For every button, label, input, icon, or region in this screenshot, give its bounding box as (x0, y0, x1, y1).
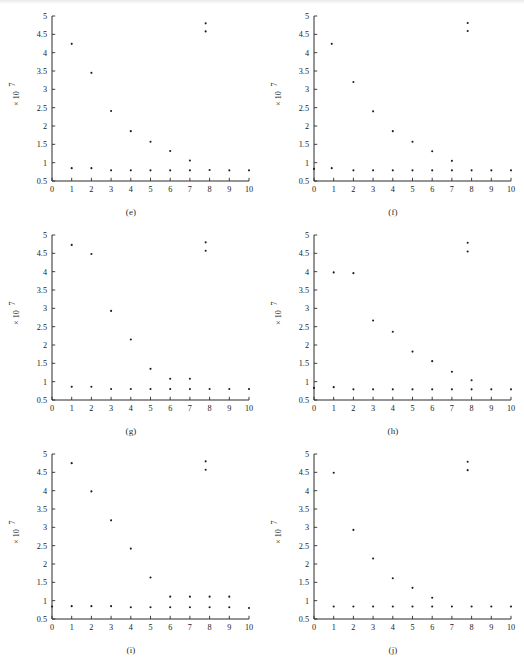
data-point (90, 386, 92, 388)
y-tick-label: 2.5 (37, 323, 47, 332)
data-point (110, 310, 112, 312)
x-tick-label: 9 (227, 404, 231, 413)
x-tick-label: 5 (410, 404, 414, 413)
x-tick-label: 2 (89, 623, 93, 632)
data-point (352, 388, 354, 390)
data-point (333, 472, 335, 474)
subplot-f: 0123456789100.511.522.533.544.55× 107 (f… (262, 0, 524, 219)
y-tick-label: 2.5 (37, 104, 47, 113)
data-point (392, 130, 394, 132)
x-tick-label: 2 (89, 185, 93, 194)
data-point (228, 169, 230, 171)
data-point (471, 169, 473, 171)
svg-text:× 10: × 10 (274, 310, 283, 325)
data-point (451, 371, 453, 373)
y-tick-label: 2 (305, 122, 309, 131)
data-point (110, 110, 112, 112)
data-point (392, 577, 394, 579)
x-tick-label: 4 (129, 404, 133, 413)
plot-canvas-j: 0123456789100.511.522.533.544.55× 107 (262, 438, 524, 657)
data-point (90, 72, 92, 74)
y-tick-label: 4 (43, 268, 47, 277)
data-point (352, 169, 354, 171)
data-point (149, 388, 151, 390)
y-tick-label: 1.5 (37, 359, 47, 368)
data-point (209, 388, 211, 390)
data-point (209, 169, 211, 171)
data-point (228, 388, 230, 390)
x-tick-label: 8 (208, 185, 212, 194)
data-point (169, 388, 171, 390)
y-tick-label: 4 (305, 487, 309, 496)
x-tick-label: 8 (470, 404, 474, 413)
data-point (471, 388, 473, 390)
subplot-j: 0123456789100.511.522.533.544.55× 107 (j… (262, 438, 524, 657)
x-tick-label: 4 (391, 623, 395, 632)
y-tick-label: 1.5 (299, 578, 309, 587)
data-point (467, 22, 469, 24)
subplot-caption-h: (h) (262, 426, 524, 436)
y-tick-label: 4.5 (37, 468, 47, 477)
data-point (110, 388, 112, 390)
y-tick-label: 3.5 (299, 505, 309, 514)
x-tick-label: 5 (148, 404, 152, 413)
data-point (149, 577, 151, 579)
data-point (510, 605, 512, 607)
data-point (90, 167, 92, 169)
x-tick-label: 3 (371, 623, 375, 632)
y-tick-label: 1.5 (37, 578, 47, 587)
data-point (431, 597, 433, 599)
x-tick-label: 3 (371, 185, 375, 194)
y-tick-label: 3 (305, 523, 309, 532)
y-tick-label: 0.5 (299, 615, 309, 624)
y-tick-label: 0.5 (299, 396, 309, 405)
x-tick-label: 9 (489, 623, 493, 632)
data-point (372, 557, 374, 559)
data-point (352, 605, 354, 607)
data-point (411, 605, 413, 607)
data-point (189, 378, 191, 380)
data-point (313, 168, 315, 170)
x-tick-label: 8 (470, 623, 474, 632)
x-tick-label: 8 (208, 623, 212, 632)
data-point (372, 605, 374, 607)
y-tick-label: 1 (43, 378, 47, 387)
data-point (189, 159, 191, 161)
data-point (169, 596, 171, 598)
data-point (431, 169, 433, 171)
y-axis-multiplier-label: × 107 (8, 520, 21, 543)
y-tick-label: 1 (305, 159, 309, 168)
subplot-caption-e: (e) (0, 207, 262, 217)
y-tick-label: 2 (305, 341, 309, 350)
data-point (248, 607, 250, 609)
svg-text:7: 7 (8, 520, 17, 524)
data-point (490, 169, 492, 171)
data-point (467, 242, 469, 244)
y-tick-label: 1 (43, 159, 47, 168)
y-tick-label: 1.5 (37, 140, 47, 149)
data-point (189, 596, 191, 598)
data-point (149, 169, 151, 171)
y-tick-label: 5 (43, 12, 47, 21)
data-point (110, 605, 112, 607)
subplot-caption-j: (j) (262, 645, 524, 655)
x-tick-label: 5 (410, 185, 414, 194)
svg-text:7: 7 (8, 82, 17, 86)
data-point (90, 253, 92, 255)
x-tick-label: 2 (351, 185, 355, 194)
data-point (130, 169, 132, 171)
y-tick-label: 3.5 (299, 286, 309, 295)
data-point (205, 460, 207, 462)
x-tick-label: 10 (245, 623, 253, 632)
svg-text:× 10: × 10 (274, 529, 283, 544)
plot-canvas-i: 0123456789100.511.522.533.544.55× 107 (0, 438, 262, 657)
y-tick-label: 0.5 (37, 177, 47, 186)
data-point (169, 378, 171, 380)
x-tick-label: 3 (109, 185, 113, 194)
y-axis-multiplier-label: × 107 (270, 301, 283, 324)
data-point (110, 519, 112, 521)
x-tick-label: 1 (332, 185, 336, 194)
x-tick-label: 4 (129, 623, 133, 632)
x-tick-label: 7 (188, 404, 192, 413)
y-tick-label: 5 (305, 12, 309, 21)
